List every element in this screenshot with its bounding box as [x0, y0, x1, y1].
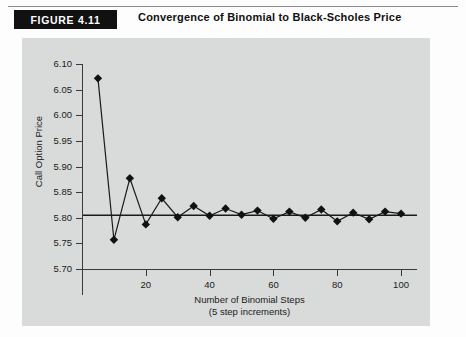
x-axis-tick	[146, 269, 147, 276]
data-point-marker	[205, 212, 213, 220]
y-axis-tick-label: 5.75	[26, 238, 72, 248]
data-point-marker	[253, 206, 261, 214]
x-axis-tick-label: 20	[126, 280, 166, 290]
y-axis-tick	[76, 141, 83, 142]
y-axis-tick	[76, 243, 83, 244]
y-axis-tick	[76, 90, 83, 91]
y-axis-tick	[76, 218, 83, 219]
y-axis-tick-label: 5.80	[26, 213, 72, 223]
x-axis-title-sub: (5 step increments)	[82, 306, 417, 318]
x-axis-tick	[210, 269, 211, 276]
data-point-marker	[142, 220, 150, 228]
plot-area: Call Option Price Number of Binomial Ste…	[22, 38, 430, 326]
data-point-marker	[126, 174, 134, 182]
data-point-marker	[110, 236, 118, 244]
x-axis-title-main: Number of Binomial Steps	[82, 294, 417, 306]
header-divider	[8, 6, 458, 7]
y-axis-tick-label: 5.95	[26, 136, 72, 146]
y-axis-tick-label: 5.85	[26, 187, 72, 197]
y-axis-tick-label: 6.05	[26, 85, 72, 95]
y-axis-tick-label: 5.90	[26, 162, 72, 172]
data-point-marker	[94, 74, 102, 82]
figure-number-badge: FIGURE 4.11	[14, 10, 117, 29]
figure-title: Convergence of Binomial to Black-Scholes…	[138, 11, 402, 23]
data-point-marker	[397, 209, 405, 217]
x-axis-title: Number of Binomial Steps (5 step increme…	[82, 294, 417, 318]
data-point-marker	[317, 205, 325, 213]
x-axis-tick-label: 100	[381, 280, 421, 290]
chart-panel: Call Option Price Number of Binomial Ste…	[22, 38, 430, 326]
x-axis-tick	[273, 269, 274, 276]
x-axis-tick	[337, 269, 338, 276]
y-axis-tick-label: 5.70	[26, 264, 72, 274]
x-axis-tick	[401, 269, 402, 276]
x-axis-tick-label: 80	[317, 280, 357, 290]
y-axis-tick	[76, 167, 83, 168]
y-axis-tick	[76, 269, 83, 270]
data-point-marker	[221, 204, 229, 212]
data-point-marker	[365, 215, 373, 223]
data-point-marker	[237, 210, 245, 218]
figure-container: FIGURE 4.11 Convergence of Binomial to B…	[0, 0, 466, 337]
data-point-marker	[189, 202, 197, 210]
y-axis-tick-label: 6.10	[26, 59, 72, 69]
y-axis-tick	[76, 192, 83, 193]
data-point-marker	[333, 217, 341, 225]
y-axis-tick	[76, 64, 83, 65]
y-axis-tick-label: 6.00	[26, 110, 72, 120]
x-axis-tick-label: 40	[190, 280, 230, 290]
x-axis-tick-label: 60	[253, 280, 293, 290]
y-axis-tick	[76, 115, 83, 116]
